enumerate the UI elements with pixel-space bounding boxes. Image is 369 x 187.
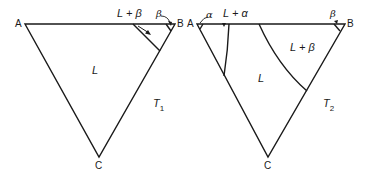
t2-beta-boundary: [334, 24, 340, 31]
t2-region-l-label: L: [258, 73, 264, 84]
t2-triangle-outline: [197, 24, 345, 157]
t2-vertex-b-label: B: [347, 19, 354, 29]
t1-vertex-a-label: A: [15, 19, 22, 29]
t2-l-alpha-arrowhead: [222, 23, 226, 27]
t2-vertex-c-label: C: [264, 161, 271, 171]
t1-region-l-label: L: [92, 65, 98, 76]
t2-region-beta-label: β: [330, 9, 336, 19]
t1-triangle-label: T1: [153, 98, 164, 109]
t2-triangle-subscript: 2: [330, 104, 334, 113]
t1-beta-boundary: [166, 24, 171, 31]
t2-l-beta-boundary: [259, 24, 307, 91]
t2-region-alpha-label: α: [206, 10, 213, 20]
t1-triangle-subscript: 1: [160, 104, 164, 113]
t1-region-beta-label: β: [156, 9, 162, 19]
t2-triangle-letter: T: [323, 97, 330, 109]
t2-l-alpha-boundary: [224, 24, 229, 76]
t1-l-beta-boundary: [133, 24, 160, 51]
t2-region-l-beta-label: L + β: [290, 42, 315, 53]
t2-region-l-alpha-label: L + α: [223, 8, 248, 19]
phase-diagram-figure: A B C L L + β β T1 A B C α L + α L L + β…: [0, 0, 369, 187]
t1-vertex-b-label: B: [177, 19, 184, 29]
diagram-svg: [0, 0, 369, 187]
t1-region-l-beta-label: L + β: [117, 8, 142, 19]
t2-triangle-label: T2: [323, 98, 334, 109]
t1-vertex-c-label: C: [95, 161, 102, 171]
t1-triangle-letter: T: [153, 97, 160, 109]
t2-vertex-a-label: A: [187, 19, 194, 29]
t2-alpha-boundary: [200, 24, 203, 29]
